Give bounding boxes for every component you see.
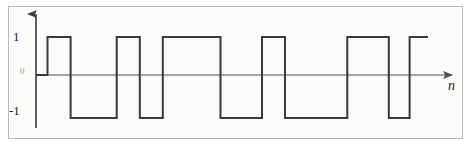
signal-trace <box>36 37 428 118</box>
waveform-chart <box>0 0 472 149</box>
waveform-figure: 1 -1 0 n <box>0 0 472 149</box>
y-tick-label-positive-one: 1 <box>13 30 20 43</box>
y-tick-label-negative-one: -1 <box>9 104 20 117</box>
x-axis-label: n <box>448 79 455 93</box>
y-tick-label-zero: 0 <box>20 67 25 76</box>
